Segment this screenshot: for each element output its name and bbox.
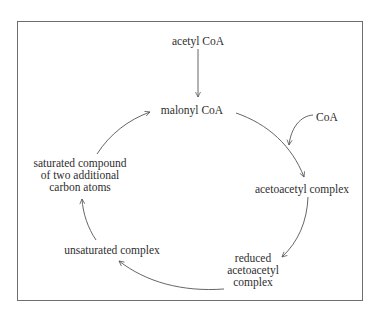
arrow-unsaturated-to-saturated-icon <box>82 199 96 240</box>
arrow-reduced-to-unsaturated-icon <box>119 261 224 290</box>
arrow-acetoacetyl-to-reduced-icon <box>282 197 308 257</box>
arrow-malonyl-to-acetoacetyl-icon <box>236 113 304 177</box>
node-unsaturated-complex: unsaturated complex <box>60 244 164 256</box>
node-acetoacetyl-complex: acetoacetyl complex <box>254 183 350 195</box>
fatty-acid-synthesis-cycle-diagram: acetyl CoA malonyl CoA CoA acetoacetyl c… <box>0 0 380 319</box>
node-saturated-compound: saturated compound of two additional car… <box>28 157 132 193</box>
node-coa: CoA <box>316 111 342 123</box>
node-reduced-acetoacetyl-complex: reduced acetoacetyl complex <box>222 252 284 288</box>
arrow-coa-input-icon <box>289 115 313 145</box>
node-acetyl-coa: acetyl CoA <box>166 35 230 47</box>
node-malonyl-coa: malonyl CoA <box>158 104 226 116</box>
arrow-saturated-to-malonyl-icon <box>97 112 150 154</box>
